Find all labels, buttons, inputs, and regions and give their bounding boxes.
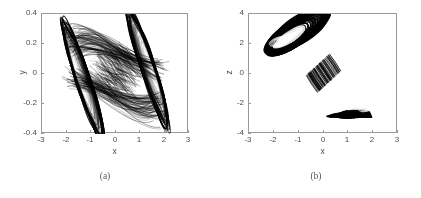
x-tick-label: -2: [62, 136, 69, 144]
x-tick-mark: [90, 130, 91, 133]
x-tick-mark: [298, 130, 299, 133]
y-tick-label: 2: [211, 39, 244, 47]
x-axis-title-a: x: [112, 147, 116, 156]
x-tick-label: -1: [86, 136, 93, 144]
panel-a: -3-2-10123-0.4-0.200.20.4 x y (a): [0, 0, 210, 198]
y-tick-mark: [41, 13, 44, 14]
y-tick-mark: [41, 103, 44, 104]
x-tick-mark: [372, 130, 373, 133]
x-tick-label: 3: [186, 136, 190, 144]
y-tick-mark: [248, 103, 251, 104]
y-axis-title-a: y: [18, 57, 27, 87]
attractor-plot-xy: [42, 14, 189, 134]
panel-caption-a: (a): [0, 172, 210, 182]
y-tick-mark: [41, 73, 44, 74]
panel-caption-b: (b): [211, 172, 421, 182]
x-tick-mark: [347, 130, 348, 133]
y-tick-mark: [248, 133, 251, 134]
x-tick-mark: [188, 130, 189, 133]
panel-b: -3-2-10123-4-2024 x z (b): [211, 0, 421, 198]
x-tick-label: -2: [269, 136, 276, 144]
x-tick-mark: [66, 130, 67, 133]
y-tick-mark: [248, 73, 251, 74]
x-tick-mark: [139, 130, 140, 133]
x-tick-mark: [164, 130, 165, 133]
y-tick-mark: [248, 13, 251, 14]
x-tick-label: 2: [370, 136, 374, 144]
y-tick-label: -4: [211, 129, 244, 137]
y-tick-label: -0.4: [0, 129, 37, 137]
x-tick-mark: [273, 130, 274, 133]
y-tick-label: 0.2: [0, 39, 37, 47]
x-tick-label: 0: [321, 136, 325, 144]
y-tick-mark: [248, 43, 251, 44]
z-axis-title-b: z: [225, 57, 234, 87]
x-tick-label: 0: [113, 136, 117, 144]
x-tick-label: -3: [244, 136, 251, 144]
y-tick-mark: [41, 43, 44, 44]
x-tick-mark: [323, 130, 324, 133]
attractor-plot-xz: [249, 14, 398, 134]
x-tick-label: 1: [137, 136, 141, 144]
plot-area-a: [41, 13, 188, 133]
x-tick-label: 1: [345, 136, 349, 144]
y-tick-label: 0.4: [0, 9, 37, 17]
y-tick-label: 4: [211, 9, 244, 17]
x-tick-mark: [397, 130, 398, 133]
y-tick-label: -0.2: [0, 99, 37, 107]
x-tick-label: -3: [37, 136, 44, 144]
y-tick-label: -2: [211, 99, 244, 107]
x-tick-label: 3: [395, 136, 399, 144]
x-tick-label: 2: [162, 136, 166, 144]
x-tick-mark: [115, 130, 116, 133]
y-tick-mark: [41, 133, 44, 134]
x-axis-title-b: x: [320, 147, 324, 156]
plot-area-b: [248, 13, 397, 133]
x-tick-label: -1: [294, 136, 301, 144]
figure-container: -3-2-10123-0.4-0.200.20.4 x y (a) -3-2-1…: [0, 0, 421, 198]
